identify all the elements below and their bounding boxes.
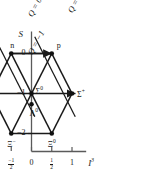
vertex-dot-lambda-zero bbox=[29, 102, 34, 107]
octet-edge-sigma-plus-xi-zero bbox=[52, 94, 72, 134]
vertex-dot-sigma-zero bbox=[29, 91, 34, 96]
particle-label-lambda-zero: Λ0 bbox=[30, 108, 39, 118]
x-axis-label-subscript: 3 bbox=[91, 157, 94, 163]
x-tick-label: −12 bbox=[5, 159, 17, 172]
octet-edge-proton-sigma-plus bbox=[52, 54, 72, 94]
figure-baryon-octet-diagram: S I3 0−1−2−1−120121npΣ−Σ0Σ+Λ0Ξ−Ξ0Q = 0Q … bbox=[0, 0, 160, 182]
y-tick-label: 0 bbox=[12, 49, 26, 57]
x-tick-label: 1 bbox=[66, 159, 78, 167]
particle-label-xi-zero: Ξ0 bbox=[48, 139, 56, 149]
particle-label-xi-minus: Ξ− bbox=[7, 139, 15, 149]
particle-label-proton: p bbox=[57, 42, 61, 50]
octet-edge-xi-minus-sigma-minus bbox=[0, 94, 11, 134]
particle-superscript: 0 bbox=[35, 107, 38, 113]
x-tick-label: 12 bbox=[46, 159, 58, 172]
particle-superscript: 0 bbox=[40, 85, 43, 91]
particle-superscript: 0 bbox=[53, 138, 56, 144]
tick-fraction: −12 bbox=[8, 158, 14, 171]
y-axis-label: S bbox=[19, 30, 24, 39]
y-tick-label: −2 bbox=[12, 129, 26, 137]
particle-label-sigma-zero: Σ0 bbox=[36, 86, 43, 96]
vertex-dot-sigma-plus bbox=[70, 91, 75, 96]
particle-superscript: − bbox=[12, 138, 15, 144]
vertex-dot-proton bbox=[49, 51, 54, 56]
tick-fraction: 12 bbox=[50, 158, 53, 171]
x-axis-label: I3 bbox=[88, 158, 94, 168]
x-tick-label: 0 bbox=[26, 159, 38, 167]
vertex-dot-xi-zero bbox=[49, 131, 54, 136]
y-tick-label: −1 bbox=[12, 89, 26, 97]
particle-superscript: + bbox=[82, 88, 85, 94]
particle-label-sigma-plus: Σ+ bbox=[77, 89, 85, 99]
particle-label-neutron: n bbox=[10, 42, 14, 50]
